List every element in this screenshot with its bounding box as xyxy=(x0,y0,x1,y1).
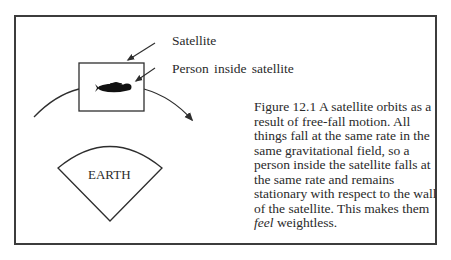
satellite-pointer-arrow xyxy=(128,43,155,60)
caption-line: Figure 12.1 A satellite orbits as a xyxy=(254,100,427,115)
earth-label: EARTH xyxy=(88,167,131,183)
caption-line: things fall at the same rate in the xyxy=(254,129,427,144)
caption-line: of the satellite. This makes them xyxy=(254,202,427,217)
orbit-path-left xyxy=(34,89,79,117)
caption-line-last: feel weightless. xyxy=(254,216,427,231)
satellite-label: Satellite xyxy=(172,33,216,49)
caption-line: the same rate and remains xyxy=(254,173,427,188)
person-inside-satellite-label: Person inside satellite xyxy=(172,61,294,77)
figure-caption: Figure 12.1 A satellite orbits as a resu… xyxy=(254,100,427,231)
earth-wedge xyxy=(58,147,162,222)
caption-last-rest: weightless. xyxy=(274,215,338,230)
orbit-path-right-arrow xyxy=(144,89,192,120)
caption-emphasis: feel xyxy=(254,215,274,230)
caption-line: same gravitational field, so a xyxy=(254,144,427,159)
caption-line: person inside the satellite falls at xyxy=(254,158,427,173)
caption-line: stationary with respect to the wall xyxy=(254,187,427,202)
caption-line: result of free-fall motion. All xyxy=(254,115,427,130)
